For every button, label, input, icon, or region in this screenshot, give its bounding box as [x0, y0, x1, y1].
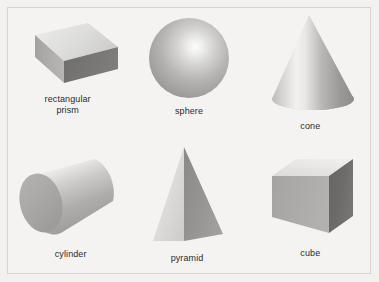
cone-illustration	[265, 13, 361, 117]
figure-label-rectangular-prism: rectangular prism	[45, 94, 91, 116]
cube-face-left	[272, 176, 329, 233]
sphere-body	[149, 18, 229, 98]
figure-cell-pyramid: pyramid	[128, 141, 249, 275]
cube-illustration	[266, 157, 358, 241]
geometric-solids-page: rectangular prism sphere	[0, 0, 379, 282]
figure-cell-sphere: sphere	[128, 7, 249, 141]
figure-cell-cone: cone	[250, 7, 371, 141]
figure-label-cone: cone	[300, 121, 320, 132]
figure-cell-cylinder: cylinder	[7, 141, 128, 275]
solids-grid: rectangular prism sphere	[7, 7, 371, 274]
sphere-illustration	[147, 16, 231, 100]
figure-label-cylinder: cylinder	[55, 249, 87, 260]
pyramid-face-right	[184, 147, 223, 241]
cylinder-illustration	[9, 153, 125, 241]
rectangular-prism-illustration	[14, 21, 122, 89]
pyramid-face-left	[153, 147, 184, 241]
figure-cell-cube: cube	[250, 141, 371, 275]
figure-cell-rectangular-prism: rectangular prism	[7, 7, 128, 141]
figure-label-pyramid: pyramid	[171, 253, 204, 264]
pyramid-illustration	[143, 144, 235, 250]
figure-label-cube: cube	[300, 248, 320, 259]
cone-lateral-surface	[272, 15, 354, 110]
figure-label-sphere: sphere	[175, 106, 203, 117]
